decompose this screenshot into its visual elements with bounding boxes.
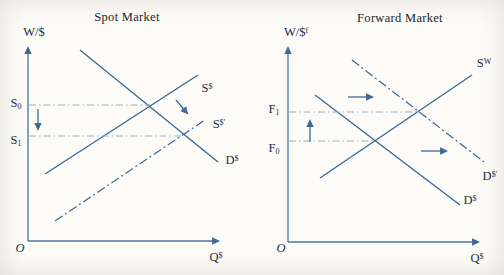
spot-supply-shifted-label: S$′ [213, 118, 226, 131]
spot-market-title: Spot Market [94, 10, 159, 25]
spot-supply-shifted-line [55, 120, 205, 221]
spot-supply-label: S$ [202, 82, 213, 95]
spot-s0-label: S0 [11, 97, 22, 110]
spot-supply-line [45, 75, 198, 174]
spot-demand-label: D$ [225, 154, 238, 167]
exchange-rate-diagram: Spot Market Forward Market W/$Q$OS0S1S$S… [0, 0, 504, 275]
spot-s1-label: S1 [11, 134, 22, 147]
forward-f1-label: F1 [269, 103, 280, 116]
spot-origin-label: O [15, 242, 24, 255]
forward-demand-label: D$ [463, 194, 476, 207]
spot-y-axis-label: W/$ [23, 26, 45, 39]
forward-supply-line [320, 75, 472, 178]
forward-supply-label: SW [477, 57, 492, 70]
spot-x-axis-label: Q$ [209, 251, 222, 264]
forward-origin-label: O [276, 242, 285, 255]
forward-x-axis-label: Q$ [470, 252, 483, 265]
forward-demand-shifted-label: D$′ [483, 170, 498, 183]
forward-f0-label: F0 [269, 142, 280, 155]
forward-market-title: Forward Market [357, 11, 443, 26]
diagram-canvas [0, 0, 504, 275]
spot-supply-shift-arrow [176, 100, 187, 113]
forward-y-axis-label: W/$f [284, 26, 308, 39]
